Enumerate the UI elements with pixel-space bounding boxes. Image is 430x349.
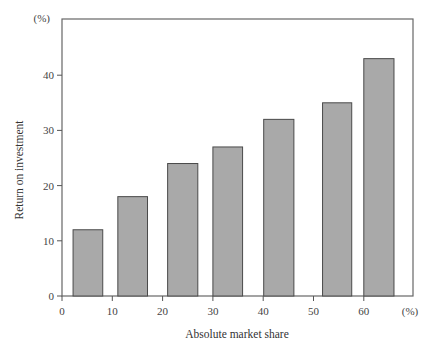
x-tick-label: 10 — [107, 305, 119, 317]
y-tick-label: 20 — [43, 180, 55, 192]
y-tick-label: 30 — [43, 124, 55, 136]
bar-50-60 — [323, 103, 352, 296]
y-axis-title: Return on investment — [13, 120, 25, 220]
bar-10-20 — [118, 197, 148, 296]
x-tick-label: 60 — [358, 305, 370, 317]
y-axis: 010203040 — [43, 69, 62, 302]
x-tick-label: 40 — [258, 305, 270, 317]
bar-chart: 010203040 0102030405060 (%) (%) Absolute… — [0, 0, 430, 349]
bar-40-50 — [264, 119, 294, 296]
bar-0-10 — [73, 230, 103, 296]
x-unit-label: (%) — [402, 305, 419, 318]
x-tick-label: 30 — [207, 305, 219, 317]
y-tick-label: 0 — [49, 290, 55, 302]
x-tick-label: 50 — [308, 305, 320, 317]
bar-20-30 — [168, 164, 198, 296]
x-tick-label: 0 — [59, 305, 65, 317]
bar-30-40 — [213, 147, 243, 296]
bar-60+ — [364, 59, 394, 296]
x-tick-label: 20 — [157, 305, 169, 317]
y-unit-label: (%) — [34, 12, 51, 25]
y-tick-label: 40 — [43, 69, 55, 81]
x-axis: 0102030405060 — [59, 296, 370, 317]
x-axis-title: Absolute market share — [185, 328, 288, 340]
y-tick-label: 10 — [43, 235, 55, 247]
bars — [73, 59, 394, 296]
